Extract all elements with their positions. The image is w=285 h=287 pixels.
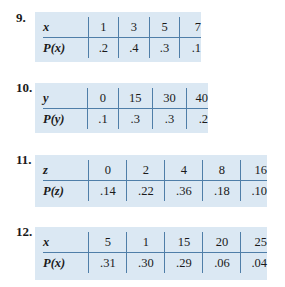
probability-label: P(y) (43, 109, 88, 130)
probability-cell: .31 (89, 253, 127, 274)
probability-table: y 0 15 30 40 P(y) .1 .3 .3 .2 (43, 88, 208, 129)
problem-number: 12. (16, 224, 32, 240)
probability-cell: .2 (88, 38, 119, 59)
value-cell: 7 (180, 17, 201, 38)
value-cell: 1 (88, 17, 119, 38)
probability-table-box: z 0 2 4 8 16 P(z) .14 .22 .36 .18 .10 (35, 155, 267, 207)
variable-label: x (43, 17, 88, 38)
probability-cell: .36 (165, 181, 203, 202)
variable-label: x (43, 232, 89, 253)
value-cell: 1 (127, 232, 165, 253)
value-cell: 16 (241, 160, 267, 181)
value-cell: 8 (203, 160, 241, 181)
probability-row: P(x) .31 .30 .29 .06 .04 (43, 253, 267, 274)
probability-cell: .3 (149, 38, 180, 59)
probability-table: x 1 3 5 7 P(x) .2 .4 .3 .1 (43, 17, 201, 58)
value-cell: 5 (89, 232, 127, 253)
probability-cell: .29 (165, 253, 203, 274)
problem-number: 9. (16, 10, 26, 26)
probability-cell: .3 (152, 109, 186, 130)
probability-table-box: x 1 3 5 7 P(x) .2 .4 .3 .1 (35, 12, 201, 62)
variable-label: y (43, 88, 88, 109)
probability-cell: .14 (89, 181, 127, 202)
probability-table: z 0 2 4 8 16 P(z) .14 .22 .36 .18 .10 (43, 160, 267, 201)
value-cell: 5 (149, 17, 180, 38)
probability-cell: .10 (241, 181, 267, 202)
probability-row: P(z) .14 .22 .36 .18 .10 (43, 181, 267, 202)
probability-row: P(x) .2 .4 .3 .1 (43, 38, 201, 59)
probability-cell: .3 (118, 109, 152, 130)
value-cell: 25 (241, 232, 267, 253)
probability-label: P(x) (43, 38, 88, 59)
variable-label: z (43, 160, 89, 181)
value-cell: 40 (187, 88, 208, 109)
probability-table: x 5 1 15 20 25 P(x) .31 .30 .29 .06 .04 (43, 232, 267, 273)
problem-number: 10. (16, 80, 32, 96)
probability-cell: .30 (127, 253, 165, 274)
probability-cell: .22 (127, 181, 165, 202)
problem-number: 11. (16, 152, 32, 168)
value-cell: 2 (127, 160, 165, 181)
probability-cell: .2 (187, 109, 208, 130)
probability-cell: .1 (180, 38, 201, 59)
probability-cell: .18 (203, 181, 241, 202)
probability-label: P(x) (43, 253, 89, 274)
value-row: z 0 2 4 8 16 (43, 160, 267, 181)
probability-table-box: y 0 15 30 40 P(y) .1 .3 .3 .2 (35, 83, 208, 133)
value-cell: 3 (119, 17, 150, 38)
value-cell: 0 (89, 160, 127, 181)
probability-cell: .1 (88, 109, 118, 130)
probability-table-box: x 5 1 15 20 25 P(x) .31 .30 .29 .06 .04 (35, 227, 267, 280)
value-row: x 1 3 5 7 (43, 17, 201, 38)
value-cell: 30 (152, 88, 186, 109)
value-cell: 20 (203, 232, 241, 253)
value-cell: 0 (88, 88, 118, 109)
probability-cell: .04 (241, 253, 267, 274)
probability-cell: .4 (119, 38, 150, 59)
probability-cell: .06 (203, 253, 241, 274)
probability-label: P(z) (43, 181, 89, 202)
value-row: x 5 1 15 20 25 (43, 232, 267, 253)
probability-row: P(y) .1 .3 .3 .2 (43, 109, 208, 130)
value-cell: 15 (118, 88, 152, 109)
value-cell: 4 (165, 160, 203, 181)
value-cell: 15 (165, 232, 203, 253)
value-row: y 0 15 30 40 (43, 88, 208, 109)
